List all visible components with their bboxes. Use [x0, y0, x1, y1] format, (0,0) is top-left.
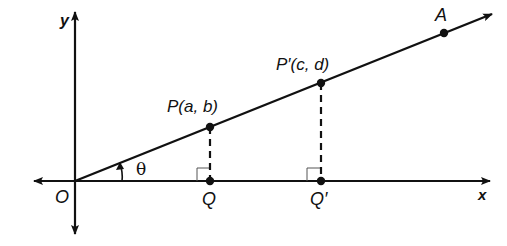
point-Q-prime-label: Q′	[310, 189, 328, 209]
point-A	[440, 29, 448, 37]
point-P-prime-label: P′(c, d)	[276, 55, 329, 74]
point-Q	[206, 177, 214, 185]
x-axis-label: x	[477, 186, 487, 203]
point-Q-label: Q	[202, 189, 216, 209]
point-A-label: A	[434, 5, 447, 25]
point-P-prime	[317, 79, 325, 87]
diagram-canvas: y x O θ A P(a, b) P′(c, d) Q Q′	[0, 0, 507, 246]
origin-label: O	[55, 187, 69, 207]
y-axis-label: y	[59, 12, 70, 29]
point-P	[206, 123, 214, 131]
point-Q-prime	[317, 177, 325, 185]
point-P-label: P(a, b)	[167, 97, 218, 116]
ray-OA	[75, 14, 492, 181]
angle-label: θ	[136, 159, 146, 179]
